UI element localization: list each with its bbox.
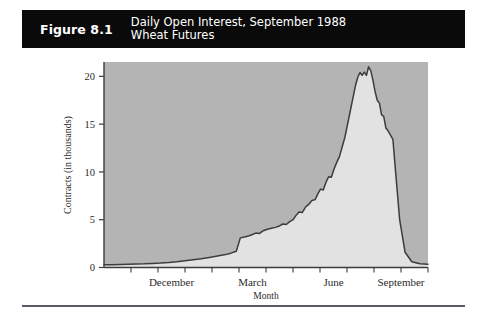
- bottom-divider: [22, 305, 465, 307]
- x-tick-label: December: [149, 276, 195, 288]
- x-axis-ticks: [131, 268, 428, 273]
- y-axis-ticks: 05101520: [85, 71, 105, 273]
- y-axis-title: Contracts (in thousands): [62, 116, 74, 214]
- chart-area: 05101520 DecemberMarchJuneSeptember Cont…: [0, 0, 488, 324]
- y-tick-label: 15: [85, 119, 96, 130]
- y-tick-label: 0: [90, 262, 95, 273]
- open-interest-area-chart: 05101520 DecemberMarchJuneSeptember Cont…: [0, 0, 488, 324]
- y-tick-label: 10: [85, 167, 96, 178]
- y-tick-label: 5: [90, 214, 95, 225]
- x-tick-label: March: [238, 276, 267, 288]
- x-tick-label: September: [377, 276, 424, 288]
- x-axis-tick-labels: DecemberMarchJuneSeptember: [149, 276, 425, 288]
- figure-container: Figure 8.1 Daily Open Interest, Septembe…: [0, 0, 488, 324]
- x-tick-label: June: [323, 276, 343, 288]
- x-axis-title: Month: [253, 291, 279, 301]
- y-tick-label: 20: [85, 71, 96, 82]
